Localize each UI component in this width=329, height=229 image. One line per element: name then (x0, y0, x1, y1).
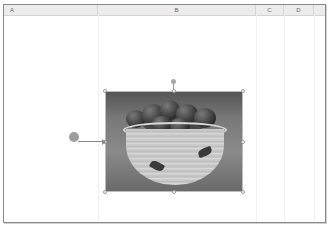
column-divider (314, 15, 315, 222)
resize-handle-top-right[interactable] (241, 89, 245, 93)
column-header-b[interactable]: B (98, 5, 256, 15)
resize-handle-top-left[interactable] (103, 89, 107, 93)
rotation-handle[interactable] (171, 79, 176, 84)
column-divider (284, 15, 285, 222)
column-header-label: A (10, 7, 14, 13)
resize-handle-bottom-right[interactable] (241, 190, 245, 194)
column-header-row: A B C D (4, 5, 325, 16)
resize-handle-top[interactable] (172, 89, 176, 93)
bowl (126, 129, 224, 185)
resize-handle-bottom[interactable] (172, 190, 176, 194)
column-header-label: C (267, 7, 271, 13)
column-header-label: B (174, 7, 178, 13)
column-divider (98, 15, 99, 222)
callout-arrow-icon (102, 139, 106, 145)
column-header-a[interactable]: A (4, 5, 98, 15)
tomato-bowl-picture[interactable] (105, 91, 243, 192)
column-header-c[interactable]: C (256, 5, 284, 15)
callout-marker-line (78, 141, 104, 142)
column-header-label: D (296, 7, 300, 13)
resize-handle-bottom-left[interactable] (103, 190, 107, 194)
column-header-d[interactable]: D (284, 5, 314, 15)
column-divider (256, 15, 257, 222)
resize-handle-right[interactable] (241, 140, 245, 144)
